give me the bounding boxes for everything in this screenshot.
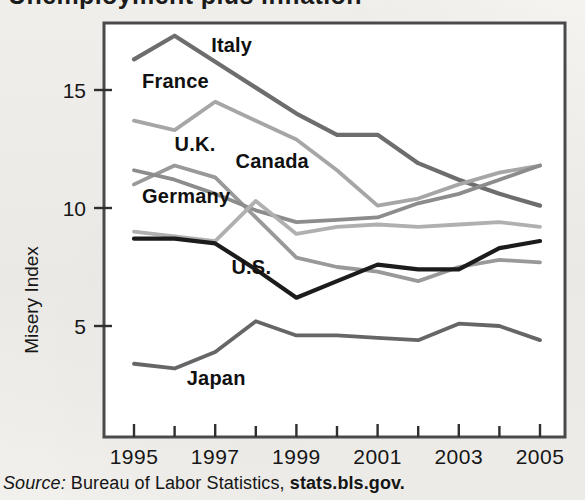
series-label-canada: Canada [236, 150, 310, 172]
source-text: Bureau of Labor Statistics, [71, 473, 285, 493]
source-url: stats.bls.gov. [290, 473, 405, 493]
chart-figure: 51015 199519971999200120032005 ItalyFran… [0, 0, 585, 500]
x-tick-label-2001: 2001 [353, 445, 402, 468]
y-axis-title: Misery Index [21, 246, 42, 354]
series-label-italy: Italy [211, 34, 253, 56]
source-prefix: Source: [3, 473, 66, 493]
x-tick-label-2005: 2005 [516, 445, 565, 468]
y-tick-label-15: 15 [63, 79, 86, 102]
x-tick-label-2003: 2003 [434, 445, 483, 468]
y-tick-label-5: 5 [74, 315, 86, 338]
series-label-france: France [142, 70, 209, 92]
series-label-u-s: U.S. [231, 256, 271, 278]
x-tick-label-1995: 1995 [110, 445, 159, 468]
misery-index-line-chart: 51015 199519971999200120032005 ItalyFran… [0, 0, 585, 500]
series-label-u-k: U.K. [175, 133, 216, 155]
series-label-japan: Japan [187, 367, 246, 389]
x-tick-label-1997: 1997 [191, 445, 240, 468]
x-tick-label-1999: 1999 [272, 445, 321, 468]
y-tick-label-10: 10 [63, 197, 86, 220]
series-label-germany: Germany [142, 185, 231, 207]
source-note: Source: Bureau of Labor Statistics, stat… [3, 473, 405, 494]
